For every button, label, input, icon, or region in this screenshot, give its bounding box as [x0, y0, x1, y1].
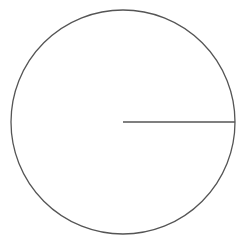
diagram-canvas	[0, 0, 251, 251]
